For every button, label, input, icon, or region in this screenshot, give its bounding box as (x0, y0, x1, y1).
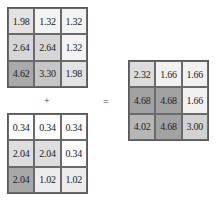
matrix-cell: 2.04 (8, 167, 34, 193)
matrix-cell: 0.34 (61, 114, 87, 140)
matrix-cell: 0.34 (34, 114, 60, 140)
matrix-cell: 1.02 (34, 167, 60, 193)
equals-sign: = (103, 97, 109, 107)
matrix-cell: 0.34 (8, 114, 34, 140)
plus-sign: + (44, 96, 50, 106)
matrix-cell: 1.66 (155, 61, 181, 87)
matrix-b: 0.340.340.342.042.040.342.041.021.02 (7, 113, 88, 194)
matrix-cell: 1.02 (61, 167, 87, 193)
matrix-a: 1.981.321.322.642.641.324.623.301.98 (7, 7, 88, 88)
matrix-cell: 1.32 (34, 8, 60, 34)
matrix-cell: 3.30 (34, 61, 60, 87)
matrix-cell: 1.98 (8, 8, 34, 34)
matrix-cell: 2.04 (34, 140, 60, 166)
matrix-cell: 2.64 (8, 34, 34, 60)
matrix-cell: 2.32 (129, 61, 155, 87)
matrix-cell: 4.02 (129, 114, 155, 140)
matrix-cell: 4.68 (129, 87, 155, 113)
matrix-cell: 1.32 (61, 8, 87, 34)
matrix-cell: 1.32 (61, 34, 87, 60)
matrix-cell: 3.00 (182, 114, 208, 140)
matrix-cell: 1.66 (182, 87, 208, 113)
matrix-cell: 0.34 (61, 140, 87, 166)
matrix-sum: 2.321.661.664.684.681.664.024.683.00 (128, 60, 209, 141)
matrix-cell: 1.98 (61, 61, 87, 87)
matrix-cell: 4.62 (8, 61, 34, 87)
matrix-cell: 2.04 (8, 140, 34, 166)
matrix-cell: 1.66 (182, 61, 208, 87)
matrix-cell: 4.68 (155, 114, 181, 140)
matrix-cell: 4.68 (155, 87, 181, 113)
matrix-cell: 2.64 (34, 34, 60, 60)
